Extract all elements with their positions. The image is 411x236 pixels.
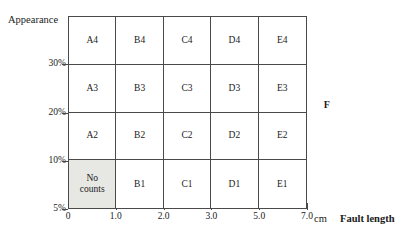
annotation-f: F [324, 100, 330, 110]
grid-cell-e4: E4 [259, 17, 306, 65]
x-axis-unit-label: cm [314, 214, 327, 225]
grid-cell-e2: E2 [259, 113, 306, 161]
x-tick-label-2-0: 2.0 [158, 212, 170, 222]
grid-cell-label: B3 [134, 83, 145, 94]
grid-cell-label: C3 [181, 83, 192, 94]
grid-cell-label: E1 [277, 179, 288, 190]
grid-cell-a3: A3 [69, 65, 116, 113]
y-axis-title: Appearance [8, 15, 58, 26]
grid-cell-c2: C2 [164, 113, 211, 161]
grid-cell-label: C1 [181, 179, 192, 190]
grid-cell-b1: B1 [116, 160, 163, 208]
x-tick-label-1-0: 1.0 [110, 212, 122, 222]
grid-cell-label: E2 [277, 130, 288, 141]
grid-cell-no-counts: Nocounts [69, 160, 116, 208]
y-tick-label-20pct: 20% [6, 108, 66, 118]
fault-length-appearance-chart: Appearance cm Fault length 5%10%20%30% 0… [0, 0, 411, 236]
x-tick-label-0: 0 [66, 212, 71, 222]
category-grid: A4B4C4D4E4A3B3C3D3E3A2B2C2D2E2NocountsB1… [69, 17, 306, 208]
grid-cell-c4: C4 [164, 17, 211, 65]
x-tick-label-7-0: 7.0 [301, 212, 313, 222]
grid-cell-label: Nocounts [80, 173, 105, 195]
grid-cell-e3: E3 [259, 65, 306, 113]
grid-cell-label: A2 [86, 130, 98, 141]
grid-cell-label: C2 [181, 130, 192, 141]
y-tick-label-10pct: 10% [6, 156, 66, 166]
grid-cell-c1: C1 [164, 160, 211, 208]
y-tick-label-30pct: 30% [6, 59, 66, 69]
plot-area: A4B4C4D4E4A3B3C3D3E3A2B2C2D2E2NocountsB1… [68, 16, 307, 209]
grid-cell-label: D4 [229, 35, 241, 46]
y-tick-mark [62, 209, 68, 210]
grid-cell-label: A3 [86, 83, 98, 94]
grid-cell-label: B2 [134, 130, 145, 141]
grid-cell-b2: B2 [116, 113, 163, 161]
grid-cell-b3: B3 [116, 65, 163, 113]
x-tick-label-3-0: 3.0 [205, 212, 217, 222]
grid-cell-a4: A4 [69, 17, 116, 65]
grid-cell-label: C4 [181, 35, 192, 46]
grid-cell-label: D2 [229, 130, 241, 141]
grid-cell-label: E3 [277, 83, 288, 94]
grid-cell-d2: D2 [211, 113, 258, 161]
grid-cell-label: D1 [229, 179, 241, 190]
x-tick-mark [307, 203, 308, 210]
x-tick-label-5-0: 5.0 [253, 212, 265, 222]
grid-cell-label: E4 [277, 35, 288, 46]
grid-cell-label: B4 [134, 35, 145, 46]
grid-cell-label: A4 [86, 35, 98, 46]
grid-cell-d4: D4 [211, 17, 258, 65]
grid-cell-e1: E1 [259, 160, 306, 208]
grid-cell-b4: B4 [116, 17, 163, 65]
grid-cell-d3: D3 [211, 65, 258, 113]
grid-cell-label: B1 [134, 179, 145, 190]
grid-cell-a2: A2 [69, 113, 116, 161]
grid-cell-label: D3 [229, 83, 241, 94]
y-tick-label-5pct: 5% [6, 204, 66, 214]
x-axis-title: Fault length [340, 214, 395, 225]
grid-cell-d1: D1 [211, 160, 258, 208]
grid-cell-c3: C3 [164, 65, 211, 113]
